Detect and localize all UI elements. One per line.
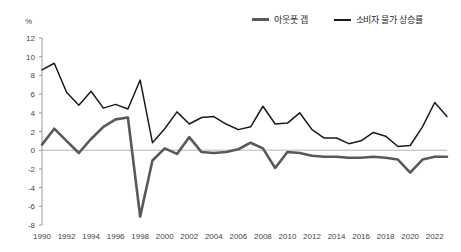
plot-area (0, 0, 461, 252)
series-line-cpi_inflation[interactable] (42, 63, 447, 146)
series-line-output_gap[interactable] (42, 117, 447, 216)
chart-container: % 아웃풋 갭 소비자 물가 상승률 121086420-2-4-6-8 199… (0, 0, 461, 252)
